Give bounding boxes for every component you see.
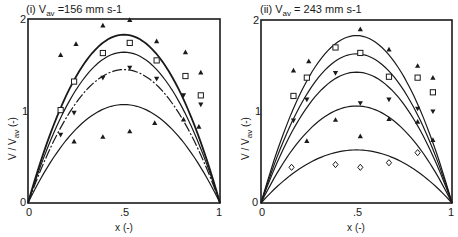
xtick-1-i: 1 <box>216 206 222 218</box>
xtick-0-ii: 0 <box>259 206 265 218</box>
fit-curve <box>28 35 220 203</box>
ylabel-i: V / Vav (-) <box>7 117 21 160</box>
chart-title-i: (i) Vav =156 mm s-1 <box>26 3 122 18</box>
data-point-square <box>58 107 63 112</box>
plot-frame-i <box>28 19 220 203</box>
fit-curve <box>28 70 220 203</box>
data-point-triangle-up-filled <box>358 134 363 139</box>
data-point-diamond <box>289 164 294 170</box>
data-point-triangle-up-filled <box>71 139 76 144</box>
data-point-triangle-up <box>73 41 78 46</box>
data-point-triangle-down <box>127 66 132 71</box>
data-markers-ii <box>289 27 436 171</box>
data-point-diamond <box>333 161 338 167</box>
data-point-triangle-up <box>306 59 311 64</box>
data-point-diamond <box>415 150 420 156</box>
data-point-triangle-down <box>304 98 309 103</box>
ytick-1-ii: 1 <box>255 105 261 117</box>
data-point-triangle-up-filled <box>100 134 105 139</box>
data-point-square <box>358 50 363 55</box>
fit-curve <box>261 150 452 203</box>
data-point-square <box>304 75 309 80</box>
chart-canvas: (i) Vav =156 mm s-1 2 1 0 0 .5 1 x (-) V… <box>0 0 458 237</box>
data-point-square <box>415 75 420 80</box>
data-point-triangle-up-filled <box>152 120 157 125</box>
ytick-2-i: 2 <box>20 13 26 25</box>
data-point-triangle-up <box>198 70 203 75</box>
data-point-square <box>430 90 435 95</box>
fit-curve <box>261 72 452 203</box>
data-point-triangle-up-filled <box>196 124 201 129</box>
chart-title-ii: (ii) Vav = 243 mm s-1 <box>260 3 362 18</box>
fit-curves-i <box>28 35 220 203</box>
data-point-square <box>386 74 391 79</box>
xlabel-ii: x (-) <box>347 222 365 233</box>
data-point-square <box>183 73 188 78</box>
data-point-square <box>333 45 338 50</box>
ytick-0-ii: 0 <box>252 196 258 208</box>
data-point-triangle-up <box>291 68 296 73</box>
data-point-triangle-down <box>386 98 391 103</box>
data-point-triangle-up-filled <box>333 117 338 122</box>
xtick-05-i: .5 <box>120 206 129 218</box>
data-point-triangle-down <box>358 101 363 106</box>
data-point-triangle-up <box>430 75 435 80</box>
chart-panel-i: (i) Vav =156 mm s-1 2 1 0 0 .5 1 x (-) V… <box>7 3 222 233</box>
xtick-0-i: 0 <box>26 206 32 218</box>
data-point-triangle-down <box>100 76 105 81</box>
ytick-2-ii: 2 <box>253 14 259 26</box>
data-point-square <box>100 50 105 55</box>
xtick-1-ii: 1 <box>448 206 454 218</box>
data-point-triangle-up <box>58 52 63 57</box>
fit-curve <box>261 54 452 203</box>
data-point-square <box>71 79 76 84</box>
ytick-1-i: 1 <box>22 105 28 117</box>
data-point-triangle-down <box>198 102 203 107</box>
data-point-triangle-up-filled <box>127 129 132 134</box>
data-point-triangle-up <box>415 63 420 68</box>
chart-panel-ii: (ii) Vav = 243 mm s-1 2 1 0 0 .5 1 x (-)… <box>240 3 454 233</box>
fit-curve <box>261 36 452 203</box>
data-point-triangle-up <box>386 47 391 52</box>
data-point-square <box>198 93 203 98</box>
data-point-square <box>127 40 132 45</box>
data-point-diamond <box>358 164 363 170</box>
fit-curve <box>28 52 220 203</box>
data-point-triangle-down <box>58 133 63 138</box>
data-point-triangle-up-filled <box>304 138 309 143</box>
fit-curves-ii <box>261 36 452 203</box>
data-point-diamond <box>386 160 391 166</box>
data-point-triangle-up <box>100 23 105 28</box>
xlabel-i: x (-) <box>115 222 133 233</box>
data-point-triangle-down <box>71 111 76 116</box>
ylabel-ii: V / Vav (-) <box>240 117 254 160</box>
data-point-square <box>291 93 296 98</box>
data-point-square <box>154 58 159 63</box>
data-point-triangle-up <box>154 38 159 43</box>
data-point-triangle-down <box>430 109 435 114</box>
fit-curve <box>261 106 452 203</box>
data-point-triangle-down <box>333 71 338 76</box>
data-point-triangle-up <box>358 27 363 32</box>
data-point-triangle-down <box>154 77 159 82</box>
data-point-triangle-up <box>183 50 188 55</box>
xtick-05-ii: .5 <box>353 206 362 218</box>
